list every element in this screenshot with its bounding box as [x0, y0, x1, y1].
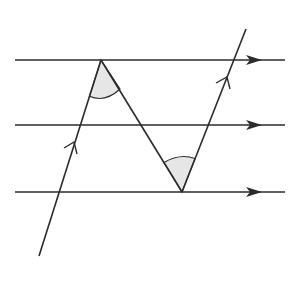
parallel-lines-diagram	[0, 0, 297, 295]
background	[0, 0, 297, 295]
